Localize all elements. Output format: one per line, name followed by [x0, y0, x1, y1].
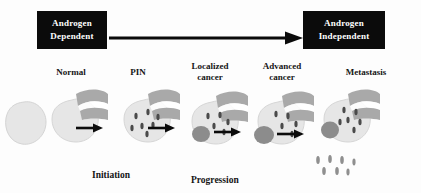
- stage-label-advanced-line1: Advanced: [263, 61, 302, 71]
- stage-label-localized-line2: cancer: [178, 72, 242, 83]
- stage-label-advanced-line2: cancer: [250, 72, 314, 83]
- prostate-gland-normal: [46, 86, 108, 148]
- androgen-independent-line1: Androgen: [324, 17, 364, 30]
- stage-label-normal-line1: Normal: [56, 67, 86, 77]
- stage-label-advanced-cancer: Advanced cancer: [250, 61, 314, 83]
- stage-label-pin-line1: PIN: [130, 67, 146, 77]
- prostate-gland-metastasis: [318, 84, 380, 146]
- stage-label-metastasis-line1: Metastasis: [346, 67, 387, 77]
- androgen-dependent-box: Androgen Dependent: [37, 11, 107, 49]
- prostate-gland-advanced-cancer: [252, 88, 314, 150]
- phase-label-progression: Progression: [191, 175, 239, 185]
- phase-label-initiation: Initiation: [92, 170, 130, 180]
- tumor-mass: [254, 126, 274, 144]
- stage-label-localized-cancer: Localized cancer: [178, 61, 242, 83]
- step-arrow-localized-to-advanced-icon: [214, 126, 242, 138]
- androgen-independent-line2: Independent: [319, 30, 370, 43]
- prostate-gland-localized-cancer: [186, 88, 248, 150]
- stage-label-pin: PIN: [118, 67, 158, 78]
- step-arrow-normal-to-pin-icon: [76, 122, 104, 134]
- androgen-transition-arrow-icon: [109, 30, 305, 46]
- tumor-mass: [321, 122, 339, 139]
- prostate-gland-pin: [118, 86, 180, 148]
- stage-label-metastasis: Metastasis: [330, 67, 402, 78]
- step-arrow-pin-to-localized-icon: [148, 122, 176, 134]
- androgen-dependent-line1: Androgen: [52, 17, 92, 30]
- tumor-mass: [192, 126, 210, 142]
- step-arrow-advanced-to-metastasis-icon: [277, 128, 305, 140]
- androgen-independent-box: Androgen Independent: [303, 11, 385, 49]
- prostate-progression-figure: Androgen Dependent Androgen Independent …: [0, 0, 421, 193]
- metastatic-cells: [312, 152, 374, 186]
- stage-label-normal: Normal: [43, 67, 99, 78]
- stage-label-localized-line1: Localized: [192, 61, 229, 71]
- androgen-dependent-line2: Dependent: [50, 30, 93, 43]
